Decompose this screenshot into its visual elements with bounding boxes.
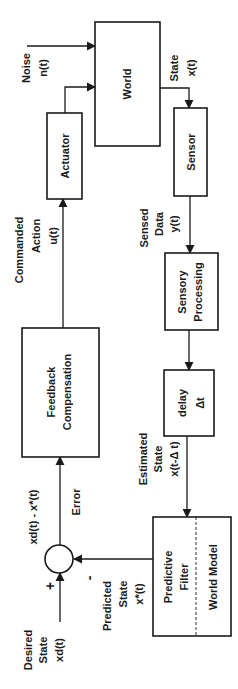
control-loop-diagram: World Noise n(t) Actuator State x(t) Sen…	[0, 0, 238, 689]
noise-label: Noise	[20, 53, 32, 83]
delay-symbol: Δt	[194, 397, 206, 409]
sensory-processing-label-1: Sensory	[176, 269, 188, 313]
commanded-action-label-2: Action	[30, 219, 42, 254]
world-label: World	[121, 69, 133, 100]
summing-junction	[45, 545, 73, 573]
predicted-state-symbol: x*(t)	[133, 583, 145, 605]
state-arrow	[160, 88, 189, 108]
sensor-label: Sensor	[185, 133, 197, 171]
estimated-state-label-1: Estimated	[137, 433, 149, 486]
desired-state-symbol: xd(t)	[53, 638, 65, 662]
minus-sign: -	[81, 575, 97, 580]
noise-symbol: n(t)	[37, 59, 49, 77]
estimated-state-label-2: State	[152, 446, 164, 473]
desired-state-label-2: State	[37, 637, 49, 664]
error-expression: xd(t) - x*(t)	[27, 489, 39, 544]
sensed-data-symbol: y(t)	[168, 215, 180, 232]
actuator-label: Actuator	[59, 133, 71, 179]
error-label: Error	[70, 488, 82, 516]
sensed-data-label-2: Data	[153, 211, 165, 236]
predictive-filter-label-2: Filter	[178, 563, 190, 591]
feedback-compensation-label-1: Feedback	[45, 366, 57, 418]
predicted-state-label-2: State	[117, 581, 129, 608]
desired-state-label-1: Desired	[22, 630, 34, 670]
actuator-to-world-arrow	[65, 87, 95, 113]
feedback-compensation-label-2: Compensation	[61, 354, 73, 431]
world-model-label: World Model	[207, 544, 219, 610]
plus-sign: +	[42, 582, 58, 590]
commanded-action-label-1: Commanded	[13, 217, 25, 284]
state-symbol: x(t)	[185, 59, 197, 76]
sensory-processing-label-2: Processing	[192, 262, 204, 321]
predicted-state-label-1: Predicted	[101, 581, 113, 631]
estimated-state-symbol: x(t-Δ t)	[168, 441, 180, 477]
delay-label: delay	[176, 388, 188, 417]
sensed-data-label-1: Sensed	[138, 208, 150, 247]
delay-block	[164, 370, 214, 436]
commanded-action-symbol: u(t)	[47, 227, 59, 245]
predictive-filter-label-1: Predictive	[162, 551, 174, 604]
state-label: State	[168, 55, 180, 82]
